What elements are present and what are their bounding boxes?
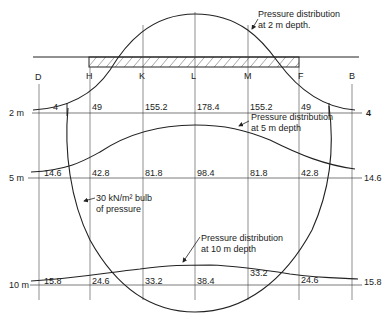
annotation-5m-line1: Pressure distribution	[251, 112, 333, 122]
label-L: L	[191, 71, 196, 81]
svg-text:24.6: 24.6	[301, 275, 319, 285]
label-F: F	[298, 71, 304, 81]
pressure-curve-5m	[31, 125, 355, 172]
svg-text:155.2: 155.2	[250, 102, 273, 112]
svg-text:42.8: 42.8	[92, 168, 110, 178]
depth-2m: 2 m	[9, 108, 24, 118]
label-H: H	[86, 71, 93, 81]
annotation-bulb-line2: of pressure	[96, 204, 141, 214]
svg-text:33.2: 33.2	[145, 276, 163, 286]
annotations: Pressure distribution at 2 m depth. Pres…	[84, 9, 340, 262]
svg-text:42.8: 42.8	[301, 168, 319, 178]
svg-text:81.8: 81.8	[145, 168, 163, 178]
svg-text:81.8: 81.8	[250, 168, 268, 178]
annotation-10m-line2: at 10 m depth	[201, 244, 256, 254]
svg-text:49: 49	[301, 102, 311, 112]
svg-text:98.4: 98.4	[197, 168, 215, 178]
depth-10m: 10 m	[9, 280, 29, 290]
svg-text:38.4: 38.4	[197, 276, 215, 286]
svg-text:49: 49	[92, 102, 102, 112]
annotation-5m-line2: at 5 m depth	[251, 123, 301, 133]
annotation-2m-line1: Pressure distribution	[258, 9, 340, 19]
label-B: B	[349, 71, 355, 81]
svg-text:178.4: 178.4	[197, 102, 220, 112]
label-M: M	[244, 71, 252, 81]
depth-5m: 5 m	[9, 173, 24, 183]
depth-labels: 2 m 5 m 10 m	[9, 108, 29, 290]
svg-text:15.8: 15.8	[364, 277, 382, 287]
svg-text:4: 4	[366, 108, 371, 118]
svg-text:14.6: 14.6	[364, 173, 382, 183]
pressure-bulb-diagram: D H K L M F B 2 m 5 m 10 m 4 49 155.2 17…	[0, 0, 389, 321]
annotation-10m-line1: Pressure distribution	[201, 233, 283, 243]
footing	[89, 57, 299, 67]
svg-text:155.2: 155.2	[145, 102, 168, 112]
annotation-2m-line2: at 2 m depth.	[258, 20, 311, 30]
svg-text:14.6: 14.6	[44, 168, 62, 178]
values-5m: 14.6 42.8 81.8 98.4 81.8 42.8 14.6	[44, 168, 382, 183]
svg-text:15.8: 15.8	[44, 276, 62, 286]
svg-text:24.6: 24.6	[92, 276, 110, 286]
annotation-bulb-line1: 30 kN/m² bulb	[96, 193, 152, 203]
svg-text:33.2: 33.2	[250, 268, 268, 278]
label-K: K	[139, 71, 145, 81]
label-D: D	[35, 72, 42, 82]
point-labels: D H K L M F B	[35, 71, 355, 82]
svg-text:4: 4	[53, 102, 58, 112]
